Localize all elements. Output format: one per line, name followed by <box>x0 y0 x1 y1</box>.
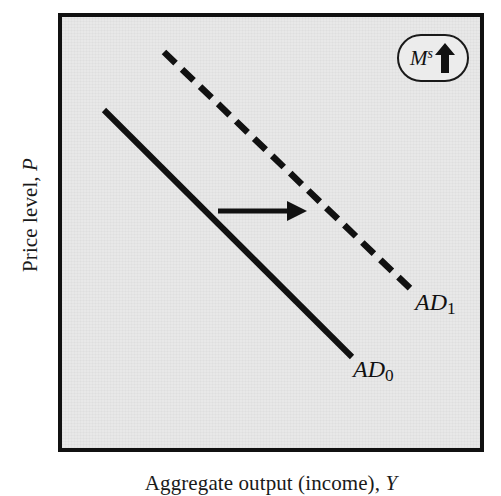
y-axis-label-variable: P <box>18 158 42 171</box>
plot-frame: AD1 AD0 Ms <box>58 13 484 452</box>
up-arrow-icon <box>434 42 456 74</box>
y-axis-label-text: Price level, <box>18 171 42 272</box>
money-supply-badge: Ms <box>397 34 469 82</box>
shift-arrow-icon <box>218 201 307 221</box>
ad0-label-sub: 0 <box>385 366 394 385</box>
x-axis-label-variable: Y <box>385 471 397 495</box>
x-axis-label-text: Aggregate output (income), <box>145 471 386 495</box>
money-supply-superscript: s <box>428 46 433 61</box>
x-axis-label: Aggregate output (income), Y <box>145 471 397 496</box>
ad0-label: AD0 <box>353 356 394 386</box>
ad1-label-sub: 1 <box>447 299 456 318</box>
ad1-label: AD1 <box>415 289 456 319</box>
ad0-curve <box>104 110 352 357</box>
money-supply-variable: M <box>410 46 428 70</box>
ad1-label-base: AD <box>415 289 447 315</box>
y-axis-label: Price level, P <box>18 158 43 272</box>
ad0-label-base: AD <box>353 356 385 382</box>
ad1-curve <box>164 52 416 294</box>
money-supply-symbol: Ms <box>410 47 433 69</box>
